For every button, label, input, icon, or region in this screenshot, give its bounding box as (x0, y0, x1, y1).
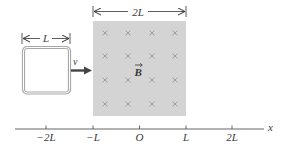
velocity-label: v (73, 56, 78, 67)
magnetic-field-region: B (93, 21, 186, 116)
conducting-loop (24, 48, 70, 94)
tick-label: O (136, 131, 144, 143)
tick-label: −L (86, 131, 100, 143)
diagram-canvas: B 2L L v −2L −L O L 2L (0, 0, 287, 147)
field-width-label: 2L (132, 6, 144, 18)
field-label: B (134, 66, 142, 78)
velocity-arrow: v (71, 56, 92, 75)
x-axis: −2L −L O L 2L x (15, 121, 273, 143)
arrow-head-icon (84, 67, 92, 75)
loop-width-label: L (42, 32, 49, 44)
tick-label: 2L (226, 131, 238, 143)
field-vector-label: B (134, 63, 143, 78)
field-width-dimension: 2L (93, 6, 186, 18)
loop-width-dimension: L (22, 32, 70, 44)
tick-label: L (182, 131, 189, 143)
tick-label: −2L (36, 131, 55, 143)
axis-label: x (267, 121, 273, 133)
